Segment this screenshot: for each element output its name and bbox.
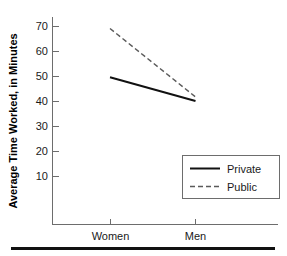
x-tick-label-women: Women bbox=[92, 230, 130, 242]
legend: Private Public bbox=[183, 156, 280, 199]
chart-figure: 70 60 50 40 30 20 10 Average Time Worked… bbox=[0, 0, 287, 256]
y-tick-label-60: 60 bbox=[36, 45, 48, 57]
x-tick-label-men: Men bbox=[185, 230, 206, 242]
y-tick-label-50: 50 bbox=[36, 70, 48, 82]
y-tick-label-10: 10 bbox=[36, 170, 48, 182]
y-axis-title: Average Time Worked, in Minutes bbox=[7, 33, 19, 208]
bottom-divider-rule bbox=[11, 247, 275, 250]
legend-label-public: Public bbox=[227, 181, 257, 193]
line-chart: 70 60 50 40 30 20 10 Average Time Worked… bbox=[0, 0, 287, 256]
y-tick-label-20: 20 bbox=[36, 145, 48, 157]
y-tick-label-30: 30 bbox=[36, 120, 48, 132]
legend-label-private: Private bbox=[227, 163, 261, 175]
y-tick-label-70: 70 bbox=[36, 20, 48, 32]
y-tick-label-40: 40 bbox=[36, 95, 48, 107]
